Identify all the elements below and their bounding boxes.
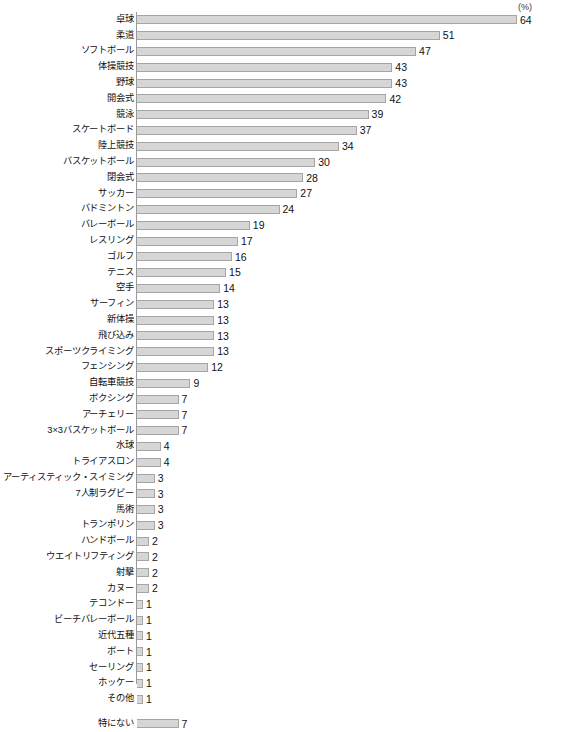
bar-row: サーフィン13 (0, 296, 576, 312)
bar-row: 開会式42 (0, 91, 576, 107)
bar-value-label: 37 (360, 125, 372, 136)
bar-value-label: 51 (443, 30, 455, 41)
bar-value-label: 2 (152, 583, 158, 594)
bar-and-value: 42 (137, 94, 401, 104)
bar (137, 15, 517, 24)
category-label: セーリング (89, 663, 134, 672)
bar-row: 卓球64 (0, 12, 576, 28)
category-label: ボクシング (89, 394, 134, 403)
bar-and-value: 30 (137, 157, 330, 167)
bar (137, 410, 179, 419)
bar-value-label: 4 (164, 441, 170, 452)
bar (137, 189, 297, 198)
bar (137, 616, 143, 625)
bar-value-label: 12 (211, 362, 223, 373)
bar-and-value: 7 (137, 719, 187, 729)
bar-row: バレーボール19 (0, 217, 576, 233)
bar-value-label: 2 (152, 568, 158, 579)
bar-value-label: 28 (306, 173, 318, 184)
category-label: サーフィン (90, 300, 134, 309)
bar-value-label: 9 (193, 378, 199, 389)
bar-row: 体操競技43 (0, 59, 576, 75)
bar (137, 521, 155, 530)
bar-and-value: 3 (137, 520, 164, 530)
category-label: 開会式 (107, 94, 134, 103)
category-label: バスケットボール (63, 157, 134, 166)
bar (137, 695, 143, 704)
bar-row: 近代五種1 (0, 628, 576, 644)
bar (137, 600, 143, 609)
bar-row: トライアスロン4 (0, 454, 576, 470)
bar (137, 631, 143, 640)
bar-value-label: 3 (158, 520, 164, 531)
bar-value-label: 1 (146, 662, 152, 673)
bar-and-value: 1 (137, 647, 152, 657)
bar-and-value: 16 (137, 252, 247, 262)
bar (137, 47, 416, 56)
bar-and-value: 13 (137, 315, 229, 325)
bar-row: レスリング17 (0, 233, 576, 249)
bar-row: バドミントン24 (0, 202, 576, 218)
bar-row: ボート1 (0, 644, 576, 660)
bar-and-value: 3 (137, 505, 164, 515)
bar-row: 特にない7 (0, 716, 576, 732)
bar (137, 316, 214, 325)
bar-row: 新体操13 (0, 312, 576, 328)
bar (137, 505, 155, 514)
bar-row: ビーチバレーボール1 (0, 612, 576, 628)
bar-and-value: 7 (137, 410, 187, 420)
plot-area: 卓球64柔道51ソフトボール47体操競技43野球43開会式42競泳39スケートボ… (0, 12, 576, 732)
bar-and-value: 7 (137, 394, 187, 404)
bar-value-label: 42 (389, 94, 401, 105)
bar-row: トランポリン3 (0, 518, 576, 534)
bar-value-label: 13 (217, 315, 229, 326)
bar-row: フェンシング12 (0, 360, 576, 376)
bar (137, 679, 143, 688)
bar-value-label: 3 (158, 473, 164, 484)
category-label: 特にない (98, 719, 134, 728)
bar (137, 126, 357, 135)
bar-row: アーチェリー7 (0, 407, 576, 423)
category-label: レスリング (89, 236, 134, 245)
bar-row: 7人制ラグビー3 (0, 486, 576, 502)
bar-and-value: 2 (137, 584, 158, 594)
bar-value-label: 1 (146, 647, 152, 658)
bar-and-value: 1 (137, 631, 152, 641)
category-label: 陸上競技 (98, 142, 134, 151)
category-label: 3×3バスケットボール (47, 426, 134, 435)
category-label: 卓球 (116, 15, 134, 24)
bar-and-value: 4 (137, 457, 170, 467)
category-label: ボート (107, 647, 134, 656)
bar-and-value: 1 (137, 615, 152, 625)
bar-and-value: 39 (137, 110, 383, 120)
bar-row: セーリング1 (0, 660, 576, 676)
bar-and-value: 4 (137, 441, 170, 451)
bar-value-label: 15 (229, 267, 241, 278)
bar-row: テコンドー1 (0, 596, 576, 612)
bar-value-label: 3 (158, 489, 164, 500)
bar (137, 94, 386, 103)
bar-row: 馬術3 (0, 502, 576, 518)
bar-value-label: 43 (395, 62, 407, 73)
bar-and-value: 9 (137, 378, 199, 388)
category-label: ハンドボール (81, 537, 134, 546)
bar-and-value: 34 (137, 141, 354, 151)
category-label: バドミントン (81, 205, 134, 214)
bar (137, 252, 232, 261)
bar-row: 陸上競技34 (0, 138, 576, 154)
bar-row: ウエイトリフティング2 (0, 549, 576, 565)
category-label: カヌー (107, 584, 134, 593)
bar-and-value: 13 (137, 347, 229, 357)
bar-and-value: 2 (137, 568, 158, 578)
bar (137, 458, 161, 467)
category-label: 競泳 (116, 110, 134, 119)
bar-value-label: 14 (223, 283, 235, 294)
bar-row: ソフトボール47 (0, 44, 576, 60)
bar-row: 閉会式28 (0, 170, 576, 186)
category-label: 7人制ラグビー (76, 489, 134, 498)
category-label: 飛び込み (98, 331, 134, 340)
category-label: 新体操 (107, 315, 134, 324)
bar (137, 474, 155, 483)
bar-value-label: 2 (152, 552, 158, 563)
